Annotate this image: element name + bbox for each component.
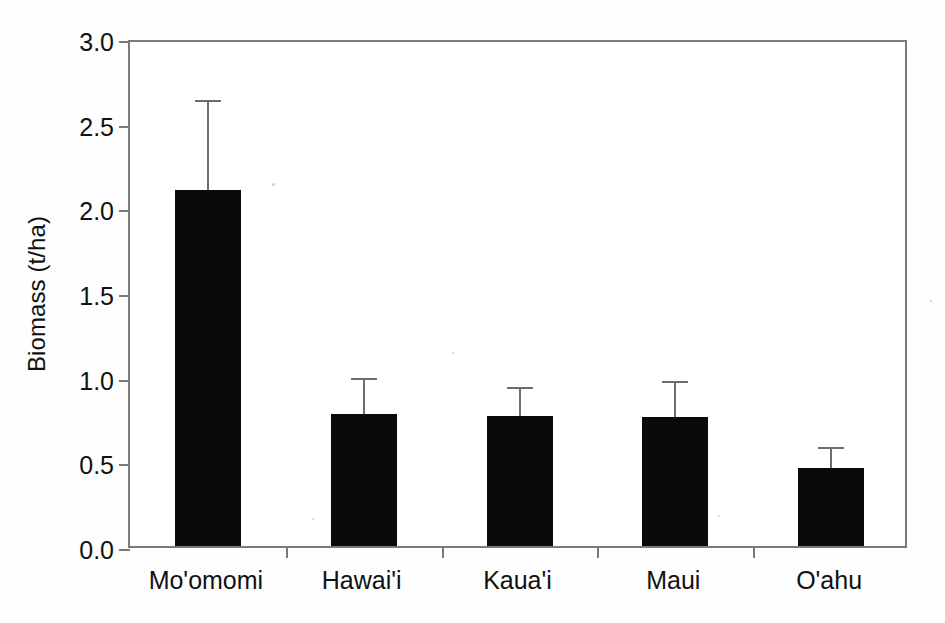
x-tick-label-hawaii: Hawai'i bbox=[322, 566, 402, 595]
error-bar-cap bbox=[195, 100, 221, 102]
error-bar-cap bbox=[662, 381, 688, 383]
bar-group[interactable] bbox=[175, 42, 241, 546]
bar-group[interactable] bbox=[798, 42, 864, 546]
y-tick-label: 2.0 bbox=[79, 197, 114, 226]
y-axis-title: Biomass (t/ha) bbox=[16, 0, 58, 588]
bar-group[interactable] bbox=[642, 42, 708, 546]
bar-moomomi[interactable] bbox=[175, 190, 241, 546]
x-tick-mark bbox=[597, 546, 599, 558]
y-tick-label: 0.0 bbox=[79, 536, 114, 565]
error-bar-stem bbox=[674, 383, 676, 417]
bar-maui[interactable] bbox=[642, 417, 708, 546]
y-tick-mark bbox=[119, 210, 130, 212]
y-tick-mark bbox=[119, 380, 130, 382]
x-tick-label-maui: Maui bbox=[646, 566, 700, 595]
x-tick-mark bbox=[442, 546, 444, 558]
y-tick-mark bbox=[119, 549, 130, 551]
y-tick-mark bbox=[119, 464, 130, 466]
x-tick-mark bbox=[753, 546, 755, 558]
x-tick-mark bbox=[286, 546, 288, 558]
y-tick-label: 1.0 bbox=[79, 366, 114, 395]
x-tick-label-moomomi: Mo'omomi bbox=[149, 566, 264, 595]
bars-layer bbox=[130, 42, 905, 546]
bar-group[interactable] bbox=[487, 42, 553, 546]
bar-hawaii[interactable] bbox=[331, 414, 397, 546]
error-bar-stem bbox=[519, 389, 521, 416]
error-bar-cap bbox=[351, 378, 377, 380]
error-bar-cap bbox=[818, 447, 844, 449]
bar-group[interactable] bbox=[331, 42, 397, 546]
error-bar-cap bbox=[507, 387, 533, 389]
y-tick-mark bbox=[119, 295, 130, 297]
bar-chart-figure: Biomass (t/ha) 0.00.51.01.52.02.53.0 Mo'… bbox=[0, 0, 945, 623]
y-tick-mark bbox=[119, 126, 130, 128]
error-bar-stem bbox=[830, 449, 832, 468]
scan-speckle bbox=[930, 300, 932, 302]
y-tick-mark bbox=[119, 41, 130, 43]
x-tick-label-kauai: Kaua'i bbox=[483, 566, 552, 595]
error-bar-stem bbox=[207, 102, 209, 190]
bar-oahu[interactable] bbox=[798, 468, 864, 546]
y-tick-label: 2.5 bbox=[79, 112, 114, 141]
y-tick-label: 3.0 bbox=[79, 28, 114, 57]
y-tick-label: 1.5 bbox=[79, 282, 114, 311]
error-bar-stem bbox=[363, 380, 365, 414]
x-tick-label-oahu: O'ahu bbox=[796, 566, 862, 595]
y-tick-label: 0.5 bbox=[79, 451, 114, 480]
bar-kauai[interactable] bbox=[487, 416, 553, 546]
plot-area: 0.00.51.01.52.02.53.0 bbox=[128, 40, 907, 548]
y-axis-title-text: Biomass (t/ha) bbox=[23, 216, 51, 372]
